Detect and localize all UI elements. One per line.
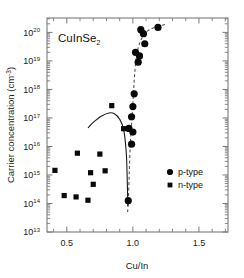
plot-annotation: CuInSe2 [58,32,101,47]
y-tick-label: 1016 [23,141,40,152]
data-point-p-type [131,90,138,97]
trend-curves [88,24,167,212]
data-point-p-type [129,103,136,110]
y-tick-label: 1020 [23,27,40,38]
data-point-n-type [85,198,90,203]
data-point-p-type [135,59,142,66]
data-point-p-type [125,197,132,204]
x-axis-ticks [54,18,226,232]
y-tick-label: 1018 [23,84,40,95]
data-point-p-type [128,141,135,148]
x-tick-label: 1.5 [193,238,206,248]
legend-marker-n-type [168,183,173,188]
legend-marker-p-type [167,169,173,175]
data-point-p-type [154,24,161,31]
data-point-n-type [73,194,78,199]
x-axis-tick-labels: 0.51.01.5 [61,238,206,248]
y-tick-label: 1013 [23,227,40,238]
y-tick-label: 1014 [23,198,40,209]
legend-label-p-type: p-type [178,167,203,177]
data-point-n-type [103,168,108,173]
legend: p-typen-type [167,167,203,190]
y-tick-label: 1019 [23,56,40,67]
x-tick-label: 0.5 [61,238,74,248]
data-point-n-type [52,168,57,173]
x-axis-label: Cu/In [126,260,149,271]
data-point-n-type [88,170,93,175]
data-point-p-type [128,113,135,120]
data-point-n-type [91,182,96,187]
data-point-n-type [109,103,114,108]
legend-label-n-type: n-type [178,180,203,190]
data-point-n-type [75,151,80,156]
data-point-n-type [97,151,102,156]
data-point-p-type [129,128,136,135]
chart-figure: 0.51.01.5 101310141015101610171018101910… [0,0,244,278]
data-point-n-type [62,193,67,198]
data-point-p-type [136,52,143,59]
y-axis-tick-labels: 10131014101510161017101810191020 [23,27,40,237]
data-point-n-type [121,126,126,131]
y-axis-label: Carrier concentration (cm-3) [5,67,17,183]
y-tick-label: 1017 [23,113,40,124]
data-point-p-type [141,40,148,47]
x-tick-label: 1.0 [127,238,140,248]
chart-svg: 0.51.01.5 101310141015101610171018101910… [0,0,244,278]
data-point-p-type [140,30,147,37]
y-tick-label: 1015 [23,170,40,181]
